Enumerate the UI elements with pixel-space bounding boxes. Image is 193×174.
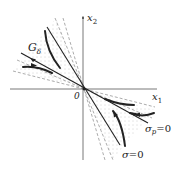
x1-axis-label: x1 [152, 91, 162, 105]
origin-point [83, 88, 86, 91]
sigma-zero-line [47, 27, 120, 145]
x2-axis-tip [82, 17, 84, 19]
phase-plane-diagram: x2 x1 0 Gδ σp=0 σ=0 [0, 0, 193, 174]
sigma-p-zero-label: σp=0 [145, 123, 171, 136]
sigma-zero-label: σ=0 [122, 149, 144, 160]
origin-label: 0 [74, 91, 80, 101]
x2-axis-label: x2 [87, 12, 97, 26]
